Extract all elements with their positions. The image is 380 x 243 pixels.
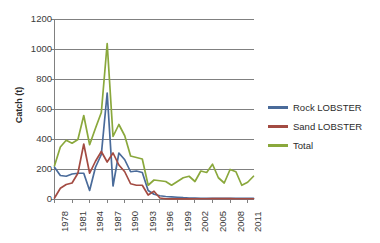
legend-swatch-total xyxy=(268,144,288,147)
x-tick-label: 2005 xyxy=(217,210,228,231)
legend-item-total: Total xyxy=(268,136,380,155)
legend-label-sand-lobster: Sand LOBSTER xyxy=(293,121,362,132)
chart-legend: Rock LOBSTER Sand LOBSTER Total xyxy=(268,98,380,155)
x-tick-label: 2002 xyxy=(199,210,210,231)
x-tick-label: 1993 xyxy=(147,210,158,231)
legend-swatch-rock-lobster xyxy=(268,106,288,109)
legend-item-rock-lobster: Rock LOBSTER xyxy=(268,98,380,117)
x-tick-label: 2008 xyxy=(235,210,246,231)
x-tick-label: 1978 xyxy=(59,210,70,231)
x-tick-label: 1999 xyxy=(182,210,193,231)
legend-item-sand-lobster: Sand LOBSTER xyxy=(268,117,380,136)
x-tick-label: 1996 xyxy=(164,210,175,231)
x-tick-label: 1981 xyxy=(77,210,88,231)
legend-label-total: Total xyxy=(293,140,313,151)
x-tick-label: 1984 xyxy=(94,210,105,231)
y-axis-title: Catch (t) xyxy=(14,70,24,140)
legend-label-rock-lobster: Rock LOBSTER xyxy=(293,102,362,113)
x-tick-label: 1990 xyxy=(129,210,140,231)
x-tick-label: 2011 xyxy=(252,211,263,231)
catch-line-chart: 020040060080010001200 197819811984198719… xyxy=(0,0,380,243)
x-tick-label: 1987 xyxy=(112,210,123,231)
legend-swatch-sand-lobster xyxy=(268,125,288,128)
